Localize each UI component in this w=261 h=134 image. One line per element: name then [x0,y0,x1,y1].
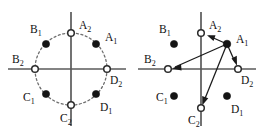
label-D1: D1 [231,103,243,118]
node-C1 [42,90,49,97]
label-A1: A1 [236,33,248,48]
node-B1 [42,40,49,47]
left-panel: A2 A1 B1 B2 D2 D1 C2 C1 [0,0,131,134]
label-D2: D2 [110,74,122,89]
node-A2 [198,30,205,37]
node-A1 [92,40,99,47]
arrow-A1-to-B2 [172,44,227,70]
node-B2 [165,66,172,73]
label-B1: B1 [30,23,42,38]
node-D1 [223,92,230,99]
node-B1 [170,40,177,47]
node-B2 [32,66,39,73]
node-D2 [104,66,111,73]
label-B2: B2 [144,53,156,68]
node-C1 [170,92,177,99]
label-A1: A1 [105,31,117,46]
label-C1: C1 [156,91,168,106]
label-D2: D2 [241,74,253,89]
left-panel-labels: A2 A1 B1 B2 D2 D1 C2 C1 [12,19,122,127]
node-D2 [235,66,242,73]
label-C2: C2 [188,114,200,129]
label-A2: A2 [209,19,221,34]
label-B1: B1 [159,23,171,38]
node-D1 [92,90,99,97]
node-A2 [68,30,75,37]
label-C1: C1 [23,91,35,106]
right-panel: A2 A1 B1 B2 D2 D1 C2 C1 [130,0,261,134]
label-B2: B2 [12,53,24,68]
label-D1: D1 [100,101,112,116]
label-C2: C2 [60,112,72,127]
node-A1 [223,40,231,48]
figure-root: A2 A1 B1 B2 D2 D1 C2 C1 [0,0,261,134]
node-C2 [68,102,75,109]
label-A2: A2 [79,19,91,34]
node-C2 [198,105,205,112]
